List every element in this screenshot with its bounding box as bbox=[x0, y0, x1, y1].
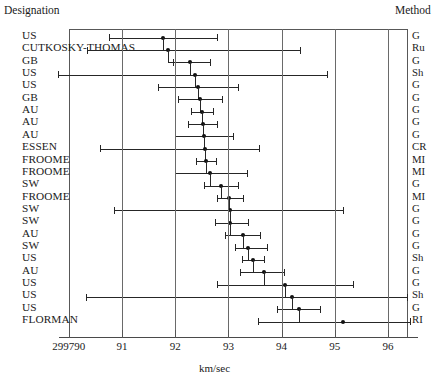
estimate-point bbox=[341, 320, 345, 324]
table-row: SWG bbox=[0, 178, 441, 190]
row-designation: SW bbox=[22, 239, 39, 251]
table-row: SWG bbox=[0, 203, 441, 215]
table-row: FLORMANRI bbox=[0, 314, 441, 326]
error-bar-cap bbox=[225, 232, 226, 239]
row-designation: US bbox=[22, 276, 37, 288]
row-designation: SW bbox=[22, 202, 39, 214]
row-method: G bbox=[412, 29, 420, 41]
error-bar-cap bbox=[178, 96, 179, 103]
error-bar-cap bbox=[264, 256, 265, 263]
row-designation: AU bbox=[22, 128, 39, 140]
row-method: G bbox=[412, 91, 420, 103]
error-bar-cap bbox=[320, 306, 321, 313]
row-method: G bbox=[412, 128, 420, 140]
row-method: Sh bbox=[412, 251, 423, 263]
error-bar-cap bbox=[196, 158, 197, 165]
error-bar-cap bbox=[407, 294, 408, 301]
error-bar-cap bbox=[238, 84, 239, 91]
error-bar-cap bbox=[277, 306, 278, 313]
error-bar-cap bbox=[284, 269, 285, 276]
row-designation: AU bbox=[22, 103, 39, 115]
table-row: FROOMEMI bbox=[0, 191, 441, 203]
table-row: SWG bbox=[0, 240, 441, 252]
error-bar-cap bbox=[248, 219, 249, 226]
x-axis-tick-label: 91 bbox=[117, 340, 128, 352]
table-row: CUTKOSKY-THOMASRu bbox=[0, 42, 441, 54]
row-designation: US bbox=[22, 251, 37, 263]
error-bar-cap bbox=[260, 232, 261, 239]
x-axis-tick-label: 93 bbox=[223, 340, 234, 352]
row-method: G bbox=[412, 115, 420, 127]
error-bar-cap bbox=[300, 47, 301, 54]
table-row: USSh bbox=[0, 252, 441, 264]
row-method: G bbox=[412, 227, 420, 239]
x-axis-tick-label: 96 bbox=[383, 340, 394, 352]
x-axis-tick bbox=[228, 330, 229, 338]
row-method: CR bbox=[412, 140, 426, 152]
error-bar-cap bbox=[217, 34, 218, 41]
error-bar-cap bbox=[213, 108, 214, 115]
row-method: RI bbox=[412, 313, 423, 325]
row-designation: US bbox=[22, 78, 37, 90]
row-method: G bbox=[412, 239, 420, 251]
error-bar-cap bbox=[109, 34, 110, 41]
row-designation: CUTKOSKY-THOMAS bbox=[22, 41, 135, 53]
row-method: G bbox=[412, 103, 420, 115]
x-axis-tick bbox=[388, 330, 389, 338]
error-bar-cap bbox=[188, 121, 189, 128]
error-bar-cap bbox=[259, 145, 260, 152]
error-bar-cap bbox=[410, 318, 411, 325]
row-method: Sh bbox=[412, 66, 423, 78]
table-row: USSh bbox=[0, 67, 441, 79]
error-bar bbox=[86, 297, 407, 298]
table-row: USG bbox=[0, 79, 441, 91]
row-method: G bbox=[412, 78, 420, 90]
column-header-method: Method bbox=[395, 4, 431, 16]
error-bar-cap bbox=[238, 182, 239, 189]
error-bar-cap bbox=[240, 269, 241, 276]
table-row: AUG bbox=[0, 265, 441, 277]
table-row: GBG bbox=[0, 92, 441, 104]
table-row: AUG bbox=[0, 116, 441, 128]
error-bar-cap bbox=[242, 256, 243, 263]
row-designation: US bbox=[22, 288, 37, 300]
x-axis-tick bbox=[69, 330, 70, 338]
x-axis-tick-label: 92 bbox=[170, 340, 181, 352]
x-axis-tick-label: 299790 bbox=[52, 340, 85, 352]
row-method: MI bbox=[412, 153, 425, 165]
row-designation: US bbox=[22, 29, 37, 41]
error-bar-cap bbox=[243, 195, 244, 202]
row-designation: GB bbox=[22, 54, 38, 66]
x-axis-tick bbox=[335, 330, 336, 338]
error-bar-cap bbox=[215, 219, 216, 226]
table-row: AUG bbox=[0, 228, 441, 240]
error-bar-cap bbox=[58, 71, 59, 78]
table-row: ESSENCR bbox=[0, 141, 441, 153]
row-designation: AU bbox=[22, 115, 39, 127]
error-bar bbox=[100, 149, 259, 150]
row-method: G bbox=[412, 177, 420, 189]
error-bar-cap bbox=[267, 244, 268, 251]
table-row: USG bbox=[0, 277, 441, 289]
error-bar-cap bbox=[343, 207, 344, 214]
error-bar bbox=[87, 50, 300, 51]
error-bar-cap bbox=[86, 294, 87, 301]
table-row: SWG bbox=[0, 215, 441, 227]
error-bar-cap bbox=[191, 108, 192, 115]
row-designation: FROOME bbox=[22, 190, 70, 202]
x-axis-tick bbox=[122, 330, 123, 338]
table-row: AUG bbox=[0, 129, 441, 141]
row-designation: AU bbox=[22, 264, 39, 276]
row-method: G bbox=[412, 276, 420, 288]
grid-line bbox=[175, 29, 176, 337]
row-designation: FLORMAN bbox=[22, 313, 78, 325]
error-bar-cap bbox=[216, 158, 217, 165]
error-bar-cap bbox=[173, 59, 174, 66]
table-row: USG bbox=[0, 302, 441, 314]
grid-line bbox=[388, 29, 389, 337]
grid-line bbox=[282, 29, 283, 337]
row-designation: GB bbox=[22, 91, 38, 103]
row-designation: ESSEN bbox=[22, 140, 57, 152]
error-bar-cap bbox=[100, 145, 101, 152]
row-designation: FROOME bbox=[22, 165, 70, 177]
